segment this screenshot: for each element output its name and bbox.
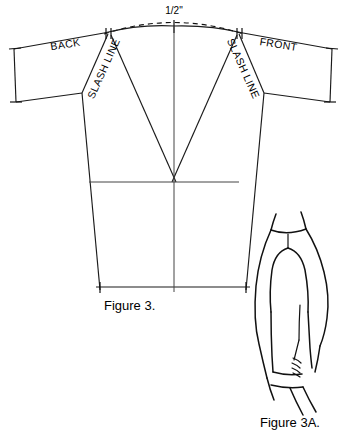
sketch-sleeve-head-front xyxy=(288,248,308,312)
back-sleeve-end-edge xyxy=(14,49,16,102)
figure-3-caption: Figure 3. xyxy=(104,298,155,313)
sketch-body-back-contour xyxy=(255,230,271,378)
sketch-upper-arm-front xyxy=(308,312,312,368)
tick-back-cuff-top xyxy=(9,48,21,49)
sketch-hand-guide xyxy=(294,340,299,360)
sketch-neck-right xyxy=(301,212,306,229)
raglan-seam-right xyxy=(172,35,237,182)
sketch-sleeve-cuff-upper xyxy=(273,372,302,375)
back-label: BACK xyxy=(50,36,82,53)
sketch-yoke-seam xyxy=(271,229,306,233)
sketch-finger-3 xyxy=(292,368,300,373)
front-label: FRONT xyxy=(259,35,299,53)
sketch-sleeve-cuff-lower xyxy=(271,385,303,388)
sketch-sleeve-head-back xyxy=(270,248,288,312)
body-side-seam-left xyxy=(82,93,100,290)
back-sleeve-underarm-edge xyxy=(16,93,82,102)
pattern-diagram-root: 1/2" BACK FRONT SLASH LINE SLASH LINE Fi… xyxy=(0,0,347,444)
tick-front-cuff-top xyxy=(326,48,338,49)
sketch-body-hem-left xyxy=(267,378,274,400)
raglan-seam-left xyxy=(111,35,176,182)
front-sleeve-underarm-edge xyxy=(264,93,330,102)
sketch-garment-opening xyxy=(299,305,300,340)
pattern-illustration: 1/2" BACK FRONT SLASH LINE SLASH LINE Fi… xyxy=(0,0,347,444)
sketch-forearm-front xyxy=(303,387,316,412)
shoulder-dimension-label: 1/2" xyxy=(165,5,183,16)
sketch-body-hem-right xyxy=(315,346,320,372)
figure-3-group: 1/2" BACK FRONT SLASH LINE SLASH LINE Fi… xyxy=(9,5,338,313)
sketch-neck-left xyxy=(271,214,276,230)
shoulder-curve-front xyxy=(174,26,243,33)
figure-3a-caption: Figure 3A. xyxy=(260,415,320,430)
sketch-upper-arm-back xyxy=(271,312,273,372)
shoulder-curve-back xyxy=(104,26,174,33)
sketch-finger-2 xyxy=(292,363,300,368)
front-sleeve-end-edge xyxy=(330,49,332,102)
figure-3a-group: Figure 3A. xyxy=(255,212,328,430)
body-side-seam-right xyxy=(246,93,264,290)
sketch-forearm-back xyxy=(290,388,303,415)
